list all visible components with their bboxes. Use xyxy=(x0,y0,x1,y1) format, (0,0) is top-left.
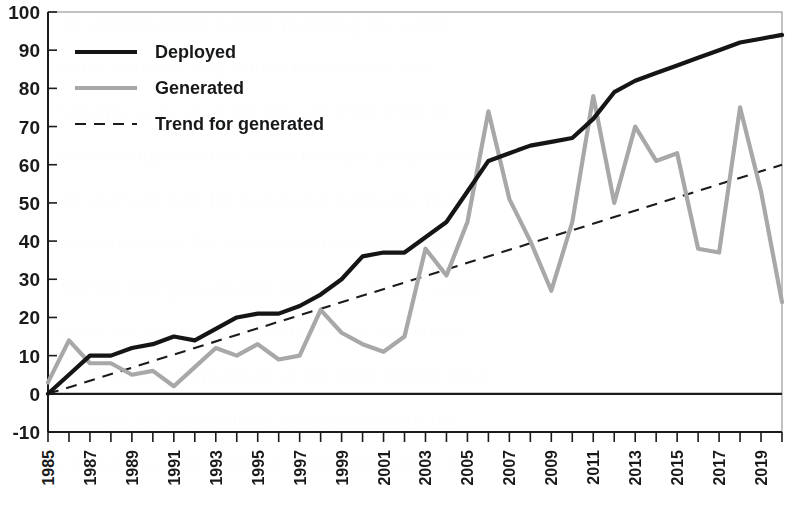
y-axis-tick-label: 20 xyxy=(19,307,40,328)
y-axis-tick-label: 60 xyxy=(19,155,40,176)
y-axis-tick-label: 40 xyxy=(19,231,40,252)
x-axis-tick-label: 2013 xyxy=(627,450,644,486)
x-axis-tick-label: 2007 xyxy=(501,450,518,486)
x-axis-tick-label: 1995 xyxy=(250,450,267,486)
legend-label: Generated xyxy=(155,78,244,98)
x-axis-tick-label: 1987 xyxy=(82,450,99,486)
legend-label: Deployed xyxy=(155,42,236,62)
y-axis-tick-label: 90 xyxy=(19,40,40,61)
x-axis-tick-label: 2017 xyxy=(711,450,728,486)
y-axis-tick-label: 30 xyxy=(19,269,40,290)
x-axis-tick-label: 1989 xyxy=(124,450,141,486)
x-axis-tick-label: 2009 xyxy=(543,450,560,486)
x-axis-tick-label: 2019 xyxy=(753,450,770,486)
x-axis-tick-label: 1993 xyxy=(208,450,225,486)
y-axis-tick-label: 0 xyxy=(29,384,40,405)
y-axis-tick-label: 80 xyxy=(19,78,40,99)
x-axis-tick-label: 1999 xyxy=(334,450,351,486)
svg-text:of the structure they within t: of the structure they within the network… xyxy=(60,55,430,79)
svg-text:considering the wider, more in: considering the wider, more in-depth per… xyxy=(60,143,471,167)
y-axis-tick-label: 100 xyxy=(8,2,40,23)
svg-text:an approach here for each fact: an approach here for each factor and in … xyxy=(60,187,470,211)
svg-text:conclusions with reference to: conclusions with reference to the result… xyxy=(60,451,475,475)
chart-figure: the understanding nations including one … xyxy=(0,0,800,525)
line-chart: the understanding nations including one … xyxy=(0,0,800,525)
y-axis-tick-label: 70 xyxy=(19,117,40,138)
svg-text:between the observations for t: between the observations for the conditi… xyxy=(60,407,457,431)
svg-text:on 2003 Certain practices in t: on 2003 Certain practices in the more ge… xyxy=(60,363,490,387)
x-axis-tick-label: 1997 xyxy=(292,450,309,486)
x-axis-tick-label: 2003 xyxy=(417,450,434,486)
x-axis-tick-label: 1991 xyxy=(166,450,183,486)
x-axis-tick-label: 1985 xyxy=(40,450,57,486)
legend-label: Trend for generated xyxy=(155,114,324,134)
x-axis-tick-label: 2015 xyxy=(669,450,686,486)
y-axis-tick-label: 50 xyxy=(19,193,40,214)
y-axis-tick-label: -10 xyxy=(13,422,40,443)
svg-text:the understanding nations incl: the understanding nations including one … xyxy=(60,11,445,35)
y-axis-tick-label: 10 xyxy=(19,346,40,367)
x-axis-tick-label: 2001 xyxy=(376,450,393,486)
x-axis-tick-label: 2011 xyxy=(585,450,602,485)
x-axis-tick-label: 2005 xyxy=(459,450,476,486)
